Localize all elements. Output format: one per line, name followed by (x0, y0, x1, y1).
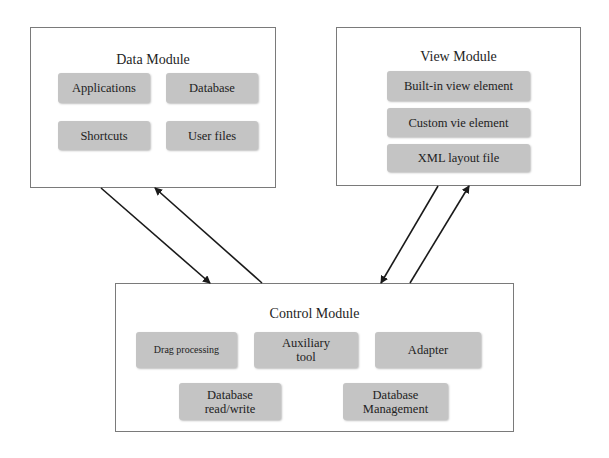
arrow-data-to-control (101, 188, 210, 283)
arrow-view-to-control (381, 186, 438, 283)
arrow-control-to-data (155, 188, 262, 283)
arrows-layer (0, 0, 609, 458)
arrow-control-to-view (410, 186, 469, 283)
